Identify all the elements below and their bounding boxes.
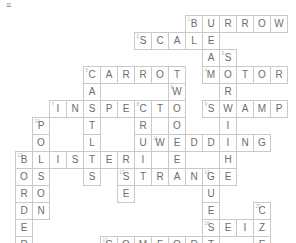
crossword-cell[interactable]: O: [253, 15, 271, 33]
crossword-cell[interactable]: 17C: [100, 236, 118, 243]
crossword-cell[interactable]: G: [253, 134, 271, 152]
crossword-cell[interactable]: T: [236, 66, 254, 84]
crossword-cell[interactable]: R: [236, 15, 254, 33]
crossword-cell[interactable]: R: [270, 66, 288, 84]
crossword-cell[interactable]: W: [219, 100, 237, 118]
crossword-cell[interactable]: 10P: [32, 117, 50, 135]
crossword-cell[interactable]: 8C: [134, 100, 152, 118]
crossword-cell[interactable]: C: [151, 32, 169, 50]
crossword-cell[interactable]: 16S: [202, 219, 220, 237]
crossword-cell[interactable]: T: [83, 151, 101, 169]
crossword-cell[interactable]: P: [270, 100, 288, 118]
crossword-cell[interactable]: U: [202, 15, 220, 33]
crossword-cell[interactable]: L: [185, 32, 203, 50]
crossword-cell[interactable]: M: [134, 236, 152, 243]
crossword-cell[interactable]: R: [219, 15, 237, 33]
crossword-cell[interactable]: 14G: [202, 168, 220, 186]
crossword-cell[interactable]: T: [202, 236, 220, 243]
crossword-cell[interactable]: I: [219, 134, 237, 152]
crossword-cell[interactable]: N: [236, 134, 254, 152]
cell-letter: B: [186, 19, 202, 29]
crossword-cell[interactable]: A: [236, 100, 254, 118]
crossword-cell[interactable]: O: [168, 100, 186, 118]
crossword-cell[interactable]: 4M: [202, 66, 220, 84]
crossword-cell[interactable]: 7I: [49, 100, 67, 118]
crossword-cell[interactable]: 15C: [253, 202, 271, 220]
crossword-cell[interactable]: R: [117, 151, 135, 169]
crossword-cell[interactable]: P: [100, 100, 118, 118]
crossword-cell[interactable]: 6W: [168, 83, 186, 101]
crossword-cell[interactable]: I: [134, 151, 152, 169]
crossword-cell[interactable]: 3S: [219, 49, 237, 67]
crossword-cell[interactable]: 9S: [202, 100, 220, 118]
crossword-cell[interactable]: A: [202, 49, 220, 67]
crossword-cell[interactable]: I: [236, 219, 254, 237]
crossword-cell[interactable]: R: [15, 236, 33, 243]
crossword-cell[interactable]: R: [134, 117, 152, 135]
crossword-cell[interactable]: M: [253, 100, 271, 118]
crossword-cell[interactable]: O: [32, 134, 50, 152]
crossword-cell[interactable]: A: [100, 66, 118, 84]
crossword-cell[interactable]: D: [15, 202, 33, 220]
crossword-cell[interactable]: R: [219, 83, 237, 101]
crossword-cell[interactable]: E: [15, 219, 33, 237]
crossword-cell[interactable]: T: [151, 100, 169, 118]
crossword-cell[interactable]: O: [168, 117, 186, 135]
cell-letter: S: [84, 104, 100, 114]
crossword-cell[interactable]: A: [83, 83, 101, 101]
crossword-cell[interactable]: A: [168, 168, 186, 186]
crossword-cell[interactable]: O: [151, 66, 169, 84]
crossword-cell[interactable]: E: [253, 236, 271, 243]
crossword-cell[interactable]: R: [134, 66, 152, 84]
crossword-cell[interactable]: O: [219, 66, 237, 84]
crossword-cell[interactable]: S: [66, 151, 84, 169]
crossword-cell[interactable]: O: [168, 236, 186, 243]
crossword-cell[interactable]: U: [134, 134, 152, 152]
crossword-cell[interactable]: E: [219, 168, 237, 186]
crossword-cell[interactable]: R: [185, 236, 203, 243]
crossword-cell[interactable]: E: [117, 185, 135, 203]
crossword-cell[interactable]: L: [83, 134, 101, 152]
crossword-cell[interactable]: N: [185, 168, 203, 186]
crossword-cell[interactable]: 11W: [151, 134, 169, 152]
cell-letter: S: [118, 172, 134, 182]
crossword-cell[interactable]: T: [168, 66, 186, 84]
crossword-cell[interactable]: 13S: [117, 168, 135, 186]
crossword-cell[interactable]: S: [83, 168, 101, 186]
crossword-cell[interactable]: T: [134, 168, 152, 186]
crossword-cell[interactable]: 1B: [185, 15, 203, 33]
crossword-cell[interactable]: E: [202, 202, 220, 220]
crossword-cell[interactable]: E: [168, 134, 186, 152]
crossword-cell[interactable]: E: [168, 151, 186, 169]
crossword-cell[interactable]: 12B: [15, 151, 33, 169]
crossword-cell[interactable]: 2S: [134, 32, 152, 50]
crossword-cell[interactable]: A: [168, 32, 186, 50]
crossword-cell[interactable]: S: [83, 100, 101, 118]
crossword-cell[interactable]: H: [219, 151, 237, 169]
crossword-cell[interactable]: I: [49, 151, 67, 169]
crossword-cell[interactable]: E: [202, 32, 220, 50]
crossword-cell[interactable]: O: [15, 168, 33, 186]
crossword-cell[interactable]: 5C: [83, 66, 101, 84]
crossword-cell[interactable]: F: [151, 236, 169, 243]
crossword-cell[interactable]: O: [117, 236, 135, 243]
crossword-cell[interactable]: R: [151, 168, 169, 186]
crossword-cell[interactable]: E: [219, 219, 237, 237]
crossword-cell[interactable]: S: [32, 168, 50, 186]
crossword-cell[interactable]: O: [253, 66, 271, 84]
crossword-cell[interactable]: R: [15, 185, 33, 203]
crossword-cell[interactable]: R: [117, 66, 135, 84]
crossword-cell[interactable]: N: [32, 202, 50, 220]
crossword-cell[interactable]: N: [66, 100, 84, 118]
crossword-cell[interactable]: U: [202, 185, 220, 203]
crossword-cell[interactable]: Z: [253, 219, 271, 237]
crossword-cell[interactable]: O: [32, 185, 50, 203]
crossword-cell[interactable]: D: [185, 134, 203, 152]
crossword-cell[interactable]: L: [32, 151, 50, 169]
crossword-cell[interactable]: W: [270, 15, 288, 33]
crossword-cell[interactable]: I: [219, 117, 237, 135]
crossword-cell[interactable]: D: [202, 134, 220, 152]
crossword-cell[interactable]: E: [100, 151, 118, 169]
crossword-cell[interactable]: E: [117, 100, 135, 118]
crossword-cell[interactable]: T: [83, 117, 101, 135]
